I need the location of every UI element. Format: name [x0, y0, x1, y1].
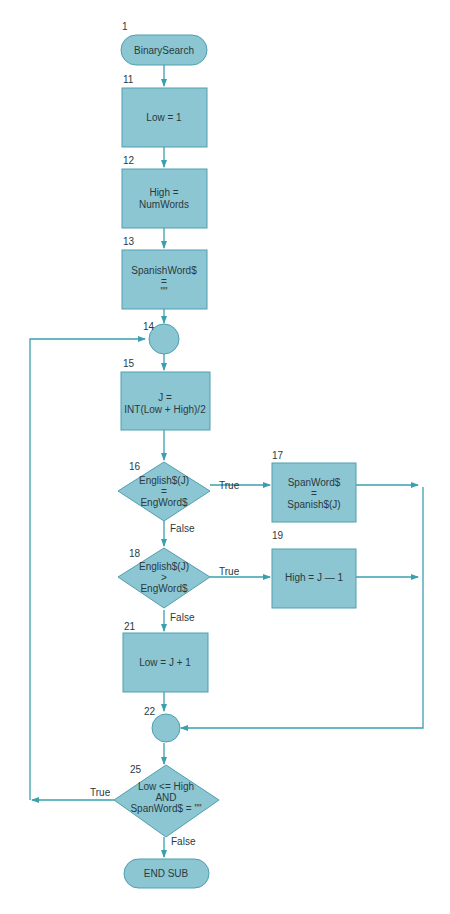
node-number: 17: [272, 450, 284, 461]
node-15-text-line1: J =: [158, 392, 172, 403]
edge-label-18-false: False: [170, 612, 195, 623]
edge-label-25-false: False: [171, 836, 196, 847]
node-19-text: High = J — 1: [285, 572, 344, 583]
node-18-text-line1: English$(J): [139, 561, 189, 572]
node-12-text-line2: NumWords: [139, 199, 189, 210]
node-number: 14: [143, 321, 155, 332]
node-13-text-line3: "": [160, 286, 168, 297]
node-25-text-line1: Low <= High: [138, 781, 194, 792]
node-16-text-line3: EngWord$: [140, 497, 188, 508]
node-number: 13: [123, 236, 135, 247]
node-25-text-line3: SpanWord$ = "": [130, 803, 202, 814]
node-number: 22: [144, 706, 156, 717]
node-22-connector: [152, 714, 180, 742]
node-number: 1: [122, 21, 128, 32]
node-number: 25: [130, 764, 142, 775]
edge-label-25-true: True: [90, 787, 111, 798]
node-number: 12: [123, 155, 135, 166]
node-number: 21: [124, 621, 136, 632]
node-18-text-line3: EngWord$: [140, 583, 188, 594]
node-number: 11: [123, 74, 134, 85]
node-17-text-line2: =: [311, 488, 317, 499]
edge-label-18-true: True: [219, 566, 240, 577]
node-17-text-line1: SpanWord$: [288, 477, 341, 488]
node-number: 15: [123, 358, 135, 369]
node-16-text-line2: =: [161, 486, 167, 497]
edge-label-16-false: False: [170, 523, 195, 534]
node-18-text-line2: >: [161, 572, 167, 583]
edges: [30, 65, 423, 857]
end-label: END SUB: [144, 868, 189, 879]
node-25-text-line2: AND: [155, 792, 176, 803]
node-number: 19: [272, 530, 284, 541]
start-label: BinarySearch: [134, 45, 194, 56]
node-15-text-line2: INT(Low + High)/2: [124, 404, 206, 415]
node-number: 16: [129, 461, 141, 472]
node-12-text-line1: High =: [149, 187, 178, 198]
node-13-text-line1: SpanishWord$: [131, 265, 197, 276]
edge-label-16-true: True: [219, 480, 240, 491]
flowchart-canvas: 1 11 12 13 14 15 16 17 18 19 21 22 25 Bi…: [0, 0, 450, 914]
node-16-text-line1: English$(J): [139, 475, 189, 486]
node-21-text: Low = J + 1: [139, 657, 191, 668]
node-11-text: Low = 1: [146, 112, 182, 123]
node-number: 18: [129, 548, 141, 559]
node-17-text-line3: Spanish$(J): [287, 499, 340, 510]
